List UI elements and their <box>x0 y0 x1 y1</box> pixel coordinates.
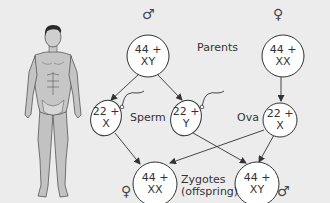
zygote-male-sex-chromosomes: XY <box>237 184 277 196</box>
sperm-x-tail-icon <box>122 91 144 107</box>
sperm-y-sex-chromosome: Y <box>168 118 204 130</box>
arrow-male-to-sperm-x <box>111 74 139 100</box>
male-symbol-icon: ♂ <box>142 7 155 21</box>
ova-label: Ova <box>237 112 259 124</box>
arrow-male-to-sperm-y <box>157 74 182 100</box>
ovum-sex-chromosome: X <box>262 120 298 132</box>
sperm-y-tail-icon <box>202 91 224 107</box>
sperm-x-sex-chromosome: X <box>88 118 124 130</box>
sperm-label: Sperm <box>130 112 166 124</box>
arrow-sperm-y-to-zygote-male <box>193 133 246 163</box>
zygote-female-symbol-icon: ♀ <box>121 184 131 198</box>
zygote-male-symbol-icon: ♂ <box>277 184 290 198</box>
human-figure-icon <box>25 25 81 197</box>
female-symbol-icon: ♀ <box>273 7 283 21</box>
zygote-female-label: 44 + XX <box>135 172 175 196</box>
ovum-label: 22 + X <box>262 108 298 132</box>
arrow-sperm-x-to-zygote-female <box>115 133 140 164</box>
sperm-x-label: 22 + X <box>88 106 124 130</box>
male-parent-sex-chromosomes: XY <box>128 56 168 68</box>
arrow-ovum-to-zygote-male <box>259 135 274 162</box>
sex-determination-diagram: ♂ ♀ ♀ ♂ 44 + XY 44 + XX 22 + X 22 + Y 22… <box>0 0 330 203</box>
zygote-female-sex-chromosomes: XX <box>135 184 175 196</box>
sperm-y-label: 22 + Y <box>168 106 204 130</box>
zygotes-subtitle: (offspring) <box>181 186 223 198</box>
female-parent-sex-chromosomes: XX <box>263 56 303 68</box>
male-parent-label: 44 + XY <box>128 44 168 68</box>
parents-label: Parents <box>197 42 238 54</box>
zygote-male-label: 44 + XY <box>237 172 277 196</box>
zygotes-label: Zygotes (offspring) <box>181 174 223 198</box>
female-parent-label: 44 + XX <box>263 44 303 68</box>
